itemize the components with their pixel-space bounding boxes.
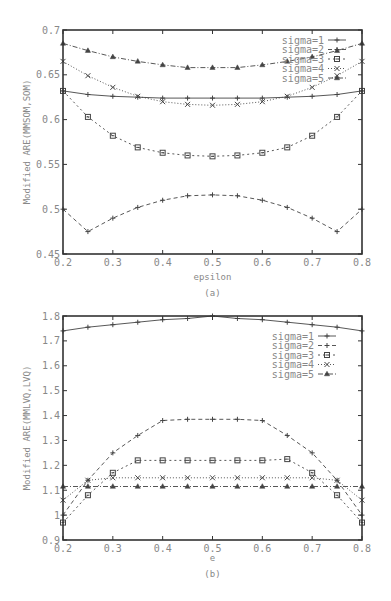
triangle-marker-icon (135, 484, 140, 489)
cross-marker-icon (135, 475, 140, 480)
series-line (63, 478, 362, 500)
panel-caption: (a) (204, 288, 220, 298)
y-tick-label: 1.2 (42, 460, 60, 471)
square-marker-icon (285, 145, 290, 150)
plus-marker-icon (110, 94, 115, 99)
plus-marker-icon (235, 417, 240, 422)
triangle-marker-icon (185, 484, 190, 489)
y-axis-label: Modified ARE(MMLVQ,LVQ) (22, 366, 32, 491)
cross-marker-icon (285, 475, 290, 480)
series-sigma-2 (61, 417, 365, 518)
plus-marker-icon (335, 92, 340, 97)
x-axis-label: e (210, 553, 215, 563)
plus-marker-icon (285, 205, 290, 210)
y-tick-label: 1.6 (42, 360, 60, 371)
plus-marker-icon (135, 205, 140, 210)
plus-marker-icon (185, 96, 190, 101)
plus-marker-icon (260, 418, 265, 423)
x-tick-label: 0.5 (203, 257, 221, 268)
square-marker-icon (335, 493, 340, 498)
cross-legend-icon (325, 362, 330, 367)
plus-marker-icon (135, 320, 140, 325)
series-line (63, 459, 362, 522)
square-marker-icon (110, 133, 115, 138)
y-tick-label: 1 (54, 510, 60, 521)
square-marker-icon (310, 470, 315, 475)
plus-marker-icon (235, 193, 240, 198)
plus-legend-icon (325, 343, 330, 348)
plus-marker-icon (160, 418, 165, 423)
plus-marker-icon (210, 96, 215, 101)
legend: sigma=1sigma=2sigma=3sigma=4sigma=5 (282, 35, 346, 84)
triangle-marker-icon (310, 484, 315, 489)
x-tick-label: 0.3 (104, 543, 122, 554)
plus-marker-icon (185, 193, 190, 198)
series-line (63, 419, 362, 515)
square-marker-icon (185, 153, 190, 158)
plus-legend-icon (335, 38, 340, 43)
y-tick-label: 1.7 (42, 335, 60, 346)
cross-marker-icon (235, 102, 240, 107)
x-tick-label: 0.6 (253, 257, 271, 268)
cross-marker-icon (210, 475, 215, 480)
panel-caption: (b) (204, 569, 220, 579)
y-tick-label: 0.7 (42, 25, 60, 36)
triangle-marker-icon (85, 484, 90, 489)
plus-marker-icon (160, 198, 165, 203)
chart-panel-a: 0.20.30.40.50.60.70.80.450.50.550.60.650… (22, 25, 371, 299)
x-tick-label: 0.4 (154, 257, 172, 268)
y-tick-label: 1.5 (42, 385, 60, 396)
plus-marker-icon (210, 417, 215, 422)
series-sigma-2 (61, 192, 365, 234)
cross-marker-icon (110, 85, 115, 90)
triangle-marker-icon (285, 484, 290, 489)
plus-marker-icon (310, 216, 315, 221)
x-tick-label: 0.4 (154, 543, 172, 554)
series-sigma-3 (61, 457, 365, 525)
plot-frame (63, 316, 362, 540)
triangle-marker-icon (235, 65, 240, 70)
plus-marker-icon (85, 92, 90, 97)
plus-marker-icon (260, 198, 265, 203)
plus-marker-icon (285, 433, 290, 438)
y-tick-label: 1.8 (42, 311, 60, 322)
cross-marker-icon (85, 73, 90, 78)
triangle-marker-icon (160, 484, 165, 489)
plus-marker-icon (285, 95, 290, 100)
legend-label: sigma=5 (272, 369, 314, 380)
plus-marker-icon (85, 325, 90, 330)
plus-legend-icon (325, 334, 330, 339)
legend-label: sigma=5 (282, 73, 324, 84)
triangle-marker-icon (110, 54, 115, 59)
plus-marker-icon (110, 216, 115, 221)
x-tick-label: 0.3 (104, 257, 122, 268)
plus-marker-icon (135, 95, 140, 100)
plus-marker-icon (310, 322, 315, 327)
triangle-marker-icon (110, 484, 115, 489)
square-marker-icon (85, 493, 90, 498)
chart-panel-b: 0.20.30.40.50.60.70.80.911.11.21.31.41.5… (22, 311, 371, 580)
triangle-marker-icon (135, 59, 140, 64)
triangle-marker-icon (235, 484, 240, 489)
x-tick-label: 0.7 (303, 257, 321, 268)
y-tick-label: 0.9 (42, 535, 60, 546)
y-tick-label: 0.6 (42, 114, 60, 125)
triangle-marker-icon (185, 65, 190, 70)
plus-marker-icon (210, 192, 215, 197)
triangle-marker-icon (334, 484, 339, 489)
figure: 0.20.30.40.50.60.70.80.450.50.550.60.650… (0, 0, 391, 601)
plus-marker-icon (335, 229, 340, 234)
series-sigma-1 (61, 88, 365, 100)
y-axis-label: Modified ARE(MMSOM,SOM) (22, 80, 32, 205)
x-tick-label: 0.8 (353, 257, 371, 268)
series-line (63, 91, 362, 156)
plus-marker-icon (110, 322, 115, 327)
triangle-legend-icon (324, 371, 329, 376)
x-tick-label: 0.7 (303, 543, 321, 554)
legend: sigma=1sigma=2sigma=3sigma=4sigma=5 (272, 331, 336, 380)
x-tick-label: 0.8 (353, 543, 371, 554)
triangle-marker-icon (210, 65, 215, 70)
y-tick-label: 1.3 (42, 435, 60, 446)
x-tick-label: 0.6 (253, 543, 271, 554)
series-sigma-5 (60, 484, 364, 489)
